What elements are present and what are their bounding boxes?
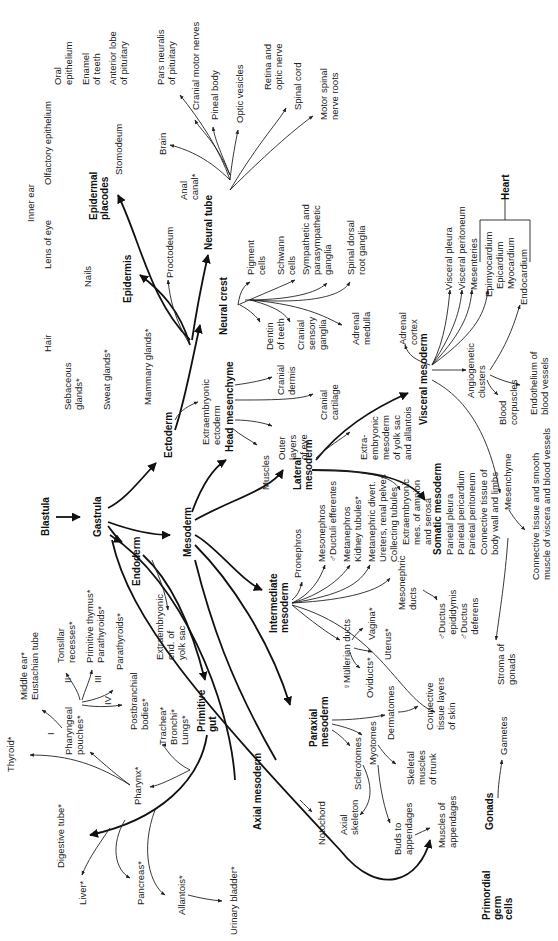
label-inner-ear: Inner ear xyxy=(25,184,36,222)
label-endocardium: Endocardium xyxy=(518,249,529,305)
label-muscles-of-appendages: Muscles of appendages xyxy=(436,796,458,848)
label-oviducts: Oviducts* xyxy=(364,657,375,698)
node-neural-tube: Neural tube xyxy=(203,195,214,250)
label-schwann-cells: Schwann cells xyxy=(275,236,297,275)
label-thyroid: Thyroid* xyxy=(5,737,16,772)
node-primitive-gut: Primitive gut xyxy=(196,690,218,732)
label-cranial-motor-nerves: Cranial motor nerves xyxy=(190,22,201,110)
node-primordial-germ-cells: Primordial germ cells xyxy=(481,871,514,920)
label-mesenchyme: Mesenchyme xyxy=(502,454,513,511)
label-cranial-sensory-ganglia: Cranial sensory ganglia xyxy=(295,317,328,350)
label-sclerotomes: Sclerotomes xyxy=(352,737,363,790)
germ-layer-diagram: Blastula Gastrula Ectoderm Mesoderm Endo… xyxy=(0,0,558,941)
label-spinal-dorsal-root-ganglia: Spinal dorsal root ganglia xyxy=(345,220,367,275)
label-angiogenetic-clusters: Angiogenetic clusters xyxy=(465,343,487,398)
label-pharynx: Pharynx* xyxy=(132,766,143,805)
node-endoderm: Endoderm xyxy=(131,537,142,586)
label-spinal-cord: Spinal cord xyxy=(292,62,303,110)
node-intermediate-mesoderm: Intermediate mesoderm xyxy=(268,574,290,633)
label-uterus: Uterus* xyxy=(382,628,393,660)
node-epidermal-placodes: Epidermal placodes xyxy=(88,172,110,220)
label-liver: Liver* xyxy=(77,881,88,905)
label-pancreas: Pancreas* xyxy=(135,861,146,905)
node-axial-mesoderm: Axial mesoderm xyxy=(252,753,263,830)
label-retina-optic-nerve: Retina and optic nerve xyxy=(262,44,284,90)
label-cranial-dermis: Cranial dermis xyxy=(275,365,297,395)
label-mesonephros: Mesonephros ♂Ductuli efferentes xyxy=(316,481,338,562)
node-somatic-mesoderm: Somatic mesoderm xyxy=(432,463,443,555)
label-epimyocardium: Epimyocardium Epicardium Myocardium xyxy=(483,232,516,297)
label-adrenal-medulla: Adrenal medulla xyxy=(350,312,372,345)
label-anterior-lobe-pituitary: Anterior lobe of pituitary xyxy=(107,31,129,85)
label-connective-skin: Connective tissue layers of skin xyxy=(424,677,457,730)
label-sweat-glands: Sweat glands* xyxy=(101,349,112,410)
label-allantois: Allantois* xyxy=(176,875,187,915)
label-mesonephric-ducts: Mesonephric ducts xyxy=(396,556,418,610)
label-vagina: Vagina* xyxy=(366,607,377,640)
label-myotomes: Myotomes xyxy=(367,721,378,765)
label-mesenteries: Mesenteries xyxy=(468,238,479,290)
label-axial-skeleton: Axial skeleton xyxy=(338,800,360,835)
label-cranial-cartilage: Cranial cartilage xyxy=(318,384,340,420)
label-digestive-tube: Digestive tube* xyxy=(55,804,66,868)
label-oral-epithelium: Oral epithelium xyxy=(52,42,74,85)
label-dentin-of-teeth: Dentin of teeth xyxy=(264,318,286,350)
label-optic-vesicles: Optic vesicles xyxy=(234,64,245,123)
label-enamel-of-teeth: Enamel of teeth xyxy=(80,53,102,85)
label-dermatomes: Dermatomes xyxy=(385,686,396,740)
label-stroma-of-gonads: Stroma of gonads xyxy=(495,644,517,685)
label-gametes: Gametes xyxy=(498,716,509,755)
label-pars-neuralis: Pars neuralis of pituitary xyxy=(155,30,177,85)
node-neural-crest: Neural crest xyxy=(218,277,229,335)
label-pouch-iv: IV xyxy=(102,696,113,705)
label-trachea: Trachea* Bronchi* Lungs* xyxy=(157,707,190,745)
node-visceral-mesoderm: Visceral mesoderm xyxy=(418,333,429,425)
label-visceral-peritoneum: Visceral peritoneum xyxy=(456,206,467,290)
node-heart: Heart xyxy=(500,174,511,200)
node-blastula: Blastula xyxy=(40,497,51,536)
node-epidermis: Epidermis xyxy=(122,255,133,303)
label-endothelium-blood-vessels: Endothelium of blood vessels xyxy=(528,352,550,415)
label-pouch-iii: III xyxy=(92,675,103,683)
label-pouch-ii: II xyxy=(62,678,73,683)
label-proctodeum: Proctodeum xyxy=(164,227,175,278)
label-pharyngeal-pouches: Pharyngeal pouches* xyxy=(63,707,85,755)
label-sebaceous-glands: Sebaceous glands* xyxy=(62,362,84,410)
label-urinary-bladder: Urinary bladder* xyxy=(228,866,239,935)
node-head-mesenchyme: Head mesenchyme xyxy=(224,361,235,452)
label-connective-smooth-muscle: Connective tissue and smooth muscle of v… xyxy=(530,428,552,580)
label-pouch-i: I xyxy=(45,732,56,735)
label-anal-canal: Anal canal* xyxy=(178,174,200,200)
label-buds-to-appendages: Buds to appendages xyxy=(392,803,414,855)
label-extraembryonic-ectoderm: Extraembryonic ectoderm xyxy=(200,379,222,445)
label-extraembryonic-mes-amnion: Extraembryonic mes. of amnion and serosa xyxy=(400,479,433,545)
node-ectoderm: Ectoderm xyxy=(163,412,174,458)
label-metanephric-divert: Metanephric divert. Ureters, renal pelve… xyxy=(366,474,399,562)
label-motor-spinal-nerve-roots: Motor spinal nerve roots xyxy=(318,68,340,120)
label-ductus-epididymis: ♂Ductus epididymis ♂Ductus deferens xyxy=(436,590,480,640)
label-olfactory-epithelium: Olfactory epithelium xyxy=(42,101,53,185)
node-gastrula: Gastrula xyxy=(92,496,103,537)
label-blood-corpuscles: Blood corpuscles xyxy=(497,380,519,425)
label-pronephros: Pronephros xyxy=(292,529,303,578)
label-outer-layers-of-eye: Outer layers of eye xyxy=(276,434,309,460)
label-pigment-cells: Pigment cells xyxy=(245,240,267,275)
label-adrenal-cortex: Adrenal cortex xyxy=(397,312,419,345)
label-mullerian-ducts: ♀Müllerian ducts xyxy=(341,619,352,690)
label-extraembryonic-mesoderm-yolk: Extra- embryonic mesoderm of yolk sac an… xyxy=(358,407,413,460)
label-brain: Brain xyxy=(157,133,168,155)
label-visceral-pleura: Visceral pleura xyxy=(443,227,454,290)
node-gonads: Gonads xyxy=(484,793,495,830)
label-lens-of-eye: Lens of eye xyxy=(42,220,53,269)
label-stomodeum: Stomodeum xyxy=(113,124,124,175)
label-sympathetic-ganglia: Sympathetic and parasympathetic ganglia xyxy=(300,204,333,275)
label-parathyroids: Parathyroids* xyxy=(114,613,125,670)
node-mesoderm: Mesoderm xyxy=(182,507,193,557)
label-middle-ear: Middle ear* Eustachian tube xyxy=(18,632,40,700)
label-connective-body-wall: Connective tissue of body wall and limbs xyxy=(478,469,500,555)
node-paraxial-mesoderm: Paraxial mesoderm xyxy=(308,696,330,747)
label-mammary-glands: Mammary glands* xyxy=(142,328,153,405)
label-primitive-thymus: Primitive thymus* Parathyroids* xyxy=(84,590,106,663)
label-notochord: Notochord xyxy=(316,801,327,845)
label-muscles: Muscles xyxy=(260,455,271,490)
